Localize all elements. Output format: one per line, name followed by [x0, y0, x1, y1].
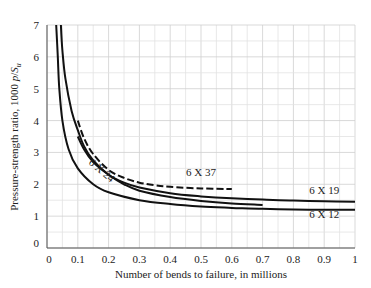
x-tick-label: 0.4 — [163, 253, 177, 265]
x-tick-label: 0.5 — [194, 253, 208, 265]
series-label: 6 X 24 — [87, 156, 118, 185]
x-tick-label: 0 — [46, 253, 52, 265]
x-tick-label: 0.7 — [256, 253, 270, 265]
y-tick-label: 5 — [34, 83, 40, 95]
y-tick-label: 7 — [34, 19, 40, 31]
x-tick-label: 0.2 — [102, 253, 116, 265]
x-tick-label: 0.8 — [287, 253, 301, 265]
x-axis-label: Number of bends to failure, in millions — [115, 268, 287, 280]
y-axis-label: Pressure-strength ratio, 1000 p/Su — [8, 63, 23, 211]
chart: 00.10.20.30.40.50.60.70.80.91 01234567 6… — [0, 0, 371, 288]
y-axis-ticks: 01234567 — [34, 19, 40, 249]
y-tick-label: 4 — [34, 115, 40, 127]
y-tick-label: 0 — [34, 237, 40, 249]
series-line — [56, 25, 355, 210]
x-tick-label: 0.9 — [317, 253, 331, 265]
y-tick-label: 2 — [34, 178, 40, 190]
y-tick-label: 3 — [34, 146, 40, 158]
y-tick-label: 6 — [34, 51, 40, 63]
x-tick-label: 0.6 — [225, 253, 239, 265]
x-tick-label: 0.1 — [71, 253, 85, 265]
x-axis-ticks: 00.10.20.30.40.50.60.70.80.91 — [46, 253, 358, 265]
series-label: 6 X 19 — [309, 184, 339, 196]
series-lines — [56, 25, 355, 210]
series-label: 6 X 37 — [186, 166, 216, 178]
x-tick-label: 1 — [352, 253, 358, 265]
series-label: 6 X 12 — [309, 208, 339, 220]
x-tick-label: 0.3 — [133, 253, 147, 265]
y-tick-label: 1 — [34, 210, 40, 222]
